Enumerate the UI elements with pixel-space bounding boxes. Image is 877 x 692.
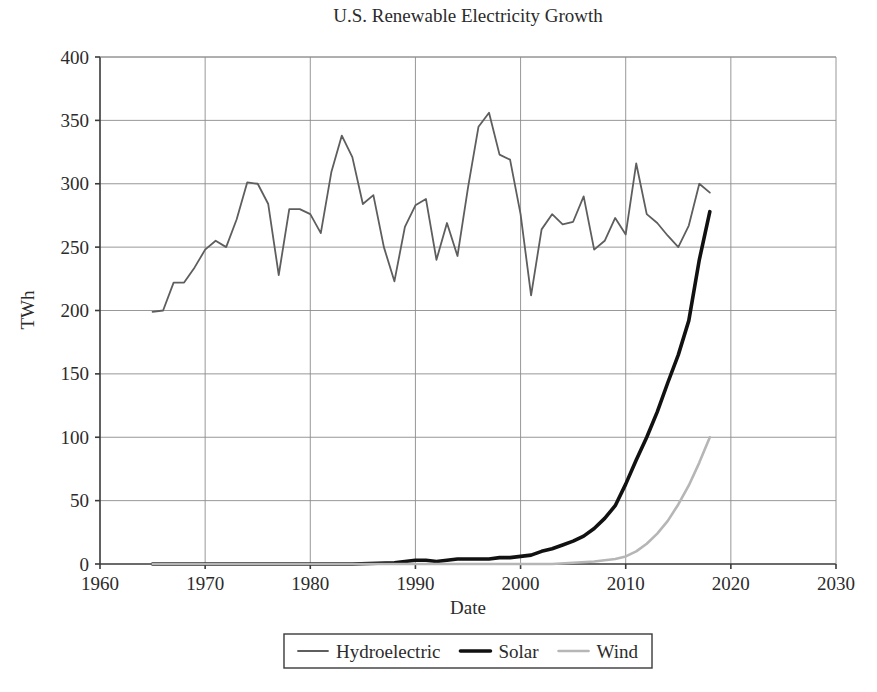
y-axis-label: TWh [17,290,38,330]
chart-figure: U.S. Renewable Electricity Growth 050100… [0,0,877,692]
y-tick-label: 350 [61,110,90,131]
x-axis-label: Date [450,597,486,618]
x-tick-label: 2030 [817,573,855,594]
chart-legend: HydroelectricSolarWind [284,634,652,668]
y-tick-label: 0 [80,554,90,575]
x-tick-label: 1980 [291,573,329,594]
x-tick-label: 2020 [712,573,750,594]
chart-canvas: U.S. Renewable Electricity Growth 050100… [0,0,877,692]
legend-label-wind: Wind [597,641,639,662]
y-tick-label: 150 [61,363,90,384]
y-tick-label: 300 [61,173,90,194]
x-tick-label: 1960 [81,573,119,594]
legend-label-hydroelectric: Hydroelectric [336,641,440,662]
y-tick-label: 200 [61,300,90,321]
x-tick-label: 1970 [186,573,224,594]
x-tick-label: 2010 [607,573,645,594]
y-tick-label: 250 [61,237,90,258]
x-tick-label: 1990 [396,573,434,594]
legend-label-solar: Solar [498,641,539,662]
chart-title: U.S. Renewable Electricity Growth [333,5,603,26]
y-tick-label: 400 [61,47,90,68]
y-tick-label: 50 [70,490,89,511]
y-tick-label: 100 [61,427,90,448]
x-tick-label: 2000 [502,573,540,594]
